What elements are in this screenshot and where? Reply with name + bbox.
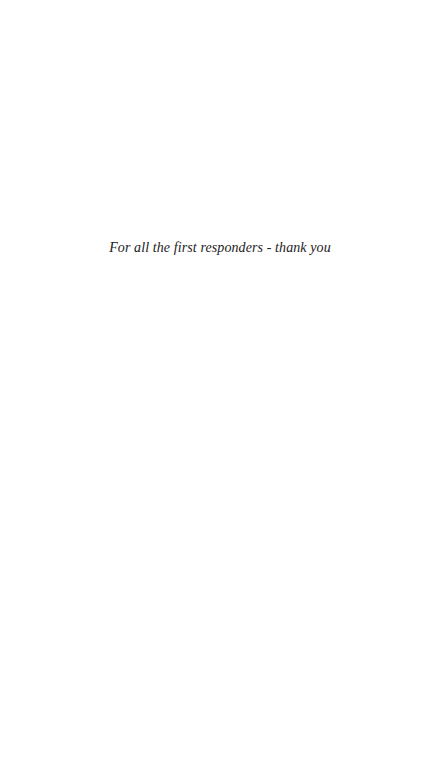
dedication-text: For all the first responders - thank you: [0, 240, 440, 256]
book-page: For all the first responders - thank you: [0, 0, 440, 772]
